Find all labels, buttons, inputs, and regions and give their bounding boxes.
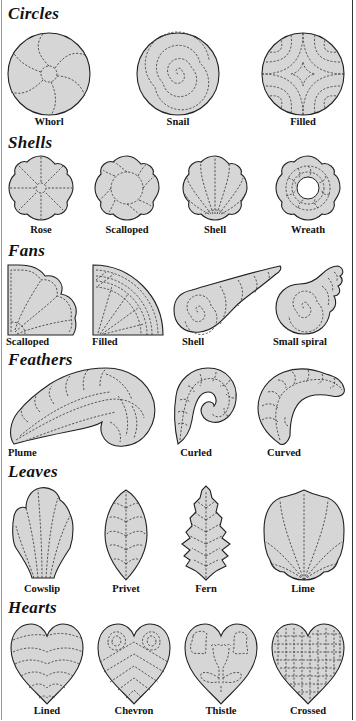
lined-heart-pattern: [9, 622, 85, 706]
label-chevron: Chevron: [115, 705, 154, 716]
label-whorl: Whorl: [34, 116, 63, 127]
whorl-circle-pattern: [7, 32, 91, 116]
scalloped-shell-pattern: [93, 154, 161, 222]
label-rose: Rose: [30, 224, 52, 235]
chevron-heart-pattern: [96, 622, 172, 706]
label-curved: Curved: [267, 447, 301, 458]
crossed-heart-pattern: [270, 622, 346, 706]
label-curled: Curled: [180, 447, 212, 458]
label-crossed: Crossed: [290, 705, 326, 716]
label-lined: Lined: [34, 705, 60, 716]
label-scalloped-fan: Scalloped: [6, 336, 49, 347]
cowslip-leaf-pattern: [10, 486, 76, 582]
label-shell: Shell: [204, 224, 226, 235]
thistle-heart-pattern: [183, 622, 259, 706]
label-filled-fan: Filled: [92, 336, 118, 347]
section-title-hearts: Hearts: [8, 598, 57, 618]
curved-feather-pattern: [254, 366, 346, 446]
label-shell-fan: Shell: [182, 336, 204, 347]
lime-leaf-pattern: [262, 488, 346, 582]
label-plume: Plume: [8, 447, 37, 458]
snail-circle-pattern: [136, 32, 220, 116]
fern-leaf-pattern: [180, 486, 232, 582]
wreath-shell-pattern: [274, 154, 342, 222]
label-thistle: Thistle: [206, 705, 237, 716]
label-small-spiral: Small spiral: [273, 336, 327, 347]
scalloped-fan-pattern: [7, 264, 79, 336]
section-title-circles: Circles: [8, 4, 59, 24]
filled-circle-pattern: [261, 32, 345, 116]
small-spiral-fan-pattern: [272, 264, 346, 336]
plume-feather-pattern: [6, 366, 156, 448]
label-snail: Snail: [167, 116, 190, 127]
label-privet: Privet: [112, 583, 139, 594]
label-fern: Fern: [195, 583, 217, 594]
label-lime: Lime: [291, 583, 314, 594]
section-title-shells: Shells: [8, 133, 52, 153]
shell-fan-pattern: [172, 264, 284, 336]
filled-fan-pattern: [92, 264, 164, 336]
label-filled-circle: Filled: [290, 116, 316, 127]
section-title-leaves: Leaves: [8, 462, 58, 482]
privet-leaf-pattern: [103, 488, 149, 582]
curled-feather-pattern: [172, 366, 238, 446]
shell-pattern: [181, 154, 249, 222]
label-scalloped-shell: Scalloped: [105, 224, 148, 235]
label-wreath: Wreath: [291, 224, 325, 235]
section-title-fans: Fans: [8, 241, 45, 261]
rose-shell-pattern: [7, 154, 75, 222]
label-cowslip: Cowslip: [24, 583, 60, 594]
